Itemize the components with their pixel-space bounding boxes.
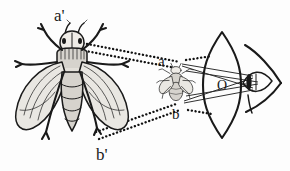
large-fly-wing-left-fill xyxy=(16,62,66,130)
large-fly-leg-front-right xyxy=(82,30,100,50)
small-fly-leg-front-left xyxy=(159,69,170,74)
large-fly-eye-left xyxy=(62,38,66,44)
eye-pupil xyxy=(246,74,251,90)
optics-diagram-figure: O xyxy=(0,0,290,171)
large-fly-antenna-tip-right xyxy=(84,20,87,23)
diagram-canvas: O xyxy=(0,0,290,171)
large-fly-leg-hind-left-tarsus xyxy=(42,132,49,139)
large-fly-leg-mid-left-tarsus xyxy=(15,61,22,67)
label-b-prime: b' xyxy=(96,145,108,164)
large-fly-leg-front-left xyxy=(44,30,62,50)
label-a: a xyxy=(158,53,165,69)
large-fly-leg-mid-right-tarsus xyxy=(122,61,129,67)
large-fly-wing-right-fill xyxy=(78,62,128,130)
large-fly-leg-front-left-tarsus xyxy=(38,24,44,30)
large-fly-abdomen-fill xyxy=(61,72,82,131)
large-fly-leg-hind-right-tarsus xyxy=(94,128,101,135)
label-b: b xyxy=(172,106,180,122)
large-fly-eye-right xyxy=(78,38,82,44)
large-fly-leg-front-right-tarsus xyxy=(100,24,106,30)
large-fly-antenna-tip-left xyxy=(67,20,70,23)
label-a-prime: a' xyxy=(54,6,65,25)
observer-eye xyxy=(241,45,281,113)
large-fly-image xyxy=(15,20,129,139)
lens-center-label: O xyxy=(217,78,227,93)
